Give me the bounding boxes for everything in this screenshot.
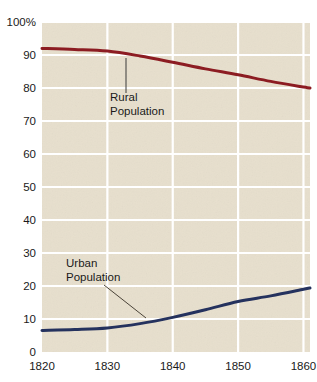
x-axis-tick-labels: 18201830184018501860 bbox=[29, 360, 316, 372]
annotation-label-line1: Urban bbox=[66, 257, 97, 269]
y-axis-tick-label: 20 bbox=[23, 280, 36, 292]
chart-container: RuralPopulationUrbanPopulation 010203040… bbox=[0, 0, 317, 382]
y-axis-tick-label: 70 bbox=[23, 115, 36, 127]
y-axis-tick-label: 100% bbox=[7, 16, 36, 28]
x-axis-tick-label: 1820 bbox=[29, 360, 55, 372]
y-axis-tick-label: 40 bbox=[23, 214, 36, 226]
x-axis-tick-label: 1850 bbox=[225, 360, 251, 372]
y-axis-tick-labels: 0102030405060708090100% bbox=[7, 16, 36, 358]
x-axis-tick-label: 1860 bbox=[291, 360, 317, 372]
annotation-label-line2: Population bbox=[66, 271, 120, 283]
y-axis-tick-label: 30 bbox=[23, 247, 36, 259]
y-axis-tick-label: 60 bbox=[23, 148, 36, 160]
y-axis-tick-label: 10 bbox=[23, 313, 36, 325]
annotation-label-line1: Rural bbox=[110, 91, 137, 103]
x-axis-tick-label: 1830 bbox=[95, 360, 121, 372]
y-axis-tick-label: 80 bbox=[23, 82, 36, 94]
y-axis-tick-label: 90 bbox=[23, 49, 36, 61]
x-axis-tick-label: 1840 bbox=[160, 360, 186, 372]
y-axis-tick-label: 50 bbox=[23, 181, 36, 193]
annotation-label-line2: Population bbox=[110, 105, 164, 117]
population-line-chart: RuralPopulationUrbanPopulation 010203040… bbox=[0, 0, 317, 382]
y-axis-tick-label: 0 bbox=[30, 346, 36, 358]
